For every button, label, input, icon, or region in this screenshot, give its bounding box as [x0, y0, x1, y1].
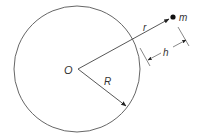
- gravity-sphere-diagram: O R r h m: [0, 0, 204, 139]
- h-dimension-left: [148, 53, 161, 60]
- h-extension-line-surface: [140, 48, 150, 66]
- center-label: O: [64, 64, 73, 76]
- height-label: h: [163, 47, 169, 58]
- mass-point: [170, 14, 175, 19]
- mass-label: m: [179, 12, 187, 23]
- sphere-circle: [14, 6, 140, 132]
- radius-label: R: [104, 76, 111, 87]
- h-dimension-right: [173, 40, 186, 47]
- radius-vector-arrow: [78, 69, 126, 106]
